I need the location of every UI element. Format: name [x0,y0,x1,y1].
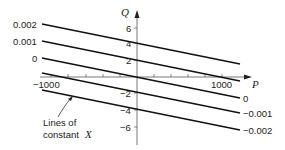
p-tick-1000: 1000 [211,79,232,90]
line-label-0-right: 0 [243,93,248,104]
line-label-neg0.001: −0.001 [243,108,272,119]
q-tick-neg2: −2 [120,88,131,99]
annotation-line1: Lines of [43,117,77,128]
annotation-line2: constant [43,129,79,140]
line-label-0-left: 0 [32,53,37,64]
line-label-0.002: 0.002 [13,19,37,30]
annotation-var: X [84,128,93,140]
q-tick-neg4: −4 [120,105,131,116]
annotation-pointer [58,98,71,117]
line-label-neg0.002: −0.002 [243,125,272,136]
q-axis-arrow-icon [135,10,140,18]
q-axis-label: Q [121,6,129,18]
constant-x-lines-diagram: Q 6 4 2 −2 −4 −6 −1000 1000 P 0.002 0.00… [0,0,285,150]
q-tick-4: 4 [126,38,131,49]
q-tick-6: 6 [126,23,131,34]
line-label-0.001: 0.001 [13,36,37,47]
line-x-0.002 [42,24,240,64]
line-x-0 [42,58,240,98]
p-axis-arrow-icon [244,75,252,80]
p-axis-label: P [251,78,259,90]
q-tick-2: 2 [126,55,131,66]
p-tick-neg1000: −1000 [33,79,60,90]
q-tick-neg6: −6 [120,122,131,133]
line-x-0.001 [42,41,240,81]
